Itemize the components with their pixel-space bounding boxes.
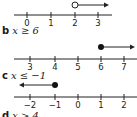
inequality-text: x ≤ −1 xyxy=(11,70,46,81)
tick-label: 1 xyxy=(43,18,59,28)
tick-label: 1 xyxy=(93,100,109,110)
number-line-c xyxy=(14,82,137,100)
tick-label: 0 xyxy=(70,100,86,110)
inequality-text: x ≥ 6 xyxy=(12,25,39,36)
problem-letter: c xyxy=(2,70,8,81)
tick-label: 3 xyxy=(90,18,106,28)
tick-label: 5 xyxy=(70,62,86,72)
problem-c-label: cx ≤ −1 xyxy=(2,70,46,81)
tick-label: −1 xyxy=(47,100,63,110)
problem-d-label: dx > 4 xyxy=(2,110,39,117)
tick-label: 2 xyxy=(67,18,83,28)
open-circle-icon xyxy=(72,2,78,8)
number-line-a xyxy=(14,2,112,18)
tick-label: 7 xyxy=(116,62,132,72)
problem-letter: d xyxy=(2,110,9,117)
problem-letter: b xyxy=(2,25,9,36)
inequality-text: x > 4 xyxy=(12,110,39,117)
number-line-b xyxy=(14,44,137,62)
arrow-right-icon xyxy=(104,3,109,8)
arrow-left-icon xyxy=(19,83,24,88)
tick-label: 2 xyxy=(116,100,132,110)
tick-label: −2 xyxy=(22,100,38,110)
problem-b-label: bx ≥ 6 xyxy=(2,25,39,36)
arrow-right-icon xyxy=(130,45,135,50)
tick-label: 4 xyxy=(47,62,63,72)
tick-label: 6 xyxy=(93,62,109,72)
